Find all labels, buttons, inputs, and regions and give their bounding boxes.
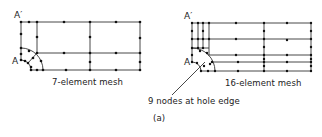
left-mesh-caption: 7-element mesh [52,77,123,87]
right-mesh-caption: 16-element mesh [225,78,301,88]
left-mesh [21,22,140,70]
panel-label: (a) [153,113,165,123]
left-mesh-nodes [20,21,142,72]
right-point-a-prime-label: A′ [184,11,192,21]
hole-edge-annotation: 9 nodes at hole edge [148,96,240,106]
left-point-a-label: A [12,56,18,66]
left-point-a-prime-label: A′ [14,10,22,20]
right-point-a-label: A [184,57,190,67]
